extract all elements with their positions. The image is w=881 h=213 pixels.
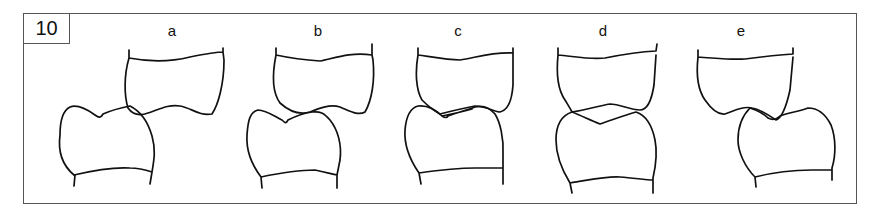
upper-tooth-c xyxy=(416,48,513,114)
lower-tooth-c xyxy=(405,106,503,184)
panel-b-teeth xyxy=(247,44,374,188)
upper-tooth-e xyxy=(697,48,793,120)
panel-d-teeth xyxy=(556,44,657,193)
lower-tooth-e xyxy=(738,108,835,187)
teeth-diagram xyxy=(0,0,881,213)
panel-e-teeth xyxy=(697,48,835,187)
upper-tooth-d xyxy=(557,44,657,112)
upper-tooth-b xyxy=(273,44,373,113)
panel-a-teeth xyxy=(60,48,224,186)
lower-tooth-b xyxy=(247,110,341,188)
lower-tooth-a xyxy=(60,106,155,186)
lower-tooth-d xyxy=(556,112,656,193)
upper-tooth-a xyxy=(125,48,224,115)
panel-c-teeth xyxy=(405,48,513,184)
